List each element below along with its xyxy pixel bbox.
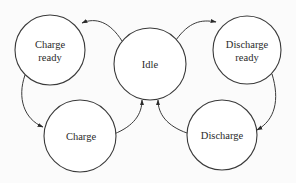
edge-discharge-ready-to-discharge bbox=[257, 74, 276, 130]
label-charge-ready: Charge ready bbox=[35, 38, 65, 64]
label-line: Charge bbox=[66, 130, 96, 143]
label-discharge: Discharge bbox=[201, 129, 243, 142]
label-line: Discharge bbox=[226, 38, 268, 51]
label-line: ready bbox=[35, 51, 65, 64]
label-line: Discharge bbox=[201, 129, 243, 142]
edge-charge-to-idle bbox=[114, 100, 142, 134]
label-idle: Idle bbox=[142, 58, 158, 71]
edge-idle-to-discharge-ready bbox=[176, 21, 216, 40]
edge-discharge-to-idle bbox=[158, 100, 187, 133]
label-charge: Charge bbox=[66, 130, 96, 143]
label-line: ready bbox=[226, 51, 268, 64]
label-discharge-ready: Discharge ready bbox=[226, 38, 268, 64]
label-line: Charge bbox=[35, 38, 65, 51]
state-diagram bbox=[0, 0, 296, 183]
label-line: Idle bbox=[142, 58, 158, 71]
edge-idle-to-charge-ready bbox=[82, 21, 122, 41]
